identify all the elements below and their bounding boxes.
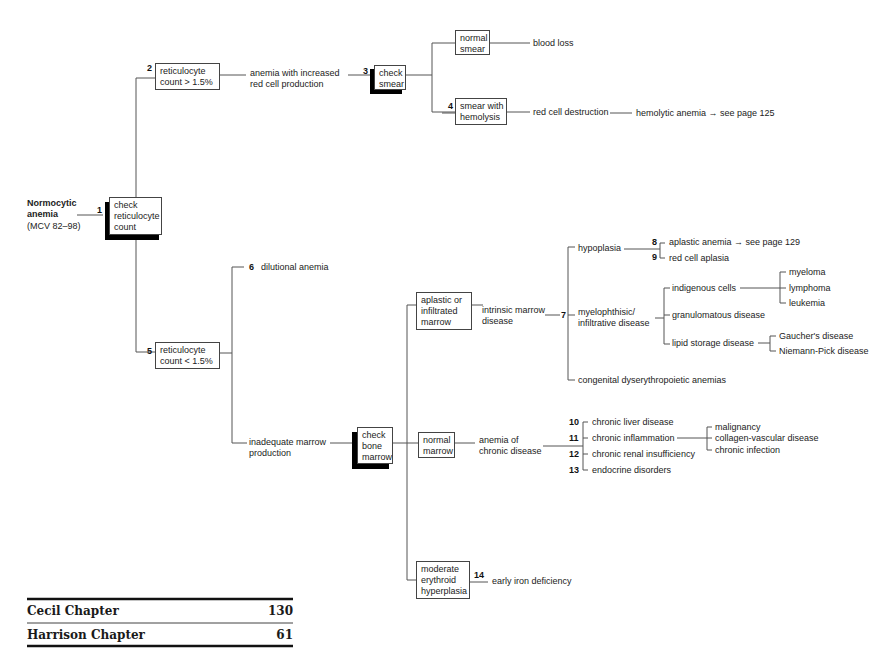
- inadequate-production-text: inadequate marrow: [249, 437, 326, 448]
- lipid-storage-text: lipid storage disease: [672, 338, 754, 349]
- hemolytic-anemia-link[interactable]: hemolytic anemia → see page 125: [636, 108, 775, 119]
- normal-marrow-box[interactable]: normal marrow: [418, 432, 455, 458]
- chronic-liver-text: chronic liver disease: [592, 417, 674, 428]
- early-iron-deficiency-text: early iron deficiency: [492, 576, 572, 587]
- red-cell-destruction-text: red cell destruction: [533, 107, 609, 118]
- aplastic-marrow-box[interactable]: aplastic or infiltrated marrow: [416, 292, 472, 330]
- retic-high-box[interactable]: reticulocyte count > 1.5%: [155, 63, 220, 90]
- box-text: check: [362, 430, 388, 441]
- lymphoma-text: lymphoma: [789, 283, 831, 294]
- niemann-pick-text: Niemann-Pick disease: [779, 346, 869, 357]
- step-number: 4: [448, 101, 453, 112]
- box-text: count: [114, 222, 157, 233]
- step-number: 1: [97, 205, 102, 216]
- box-text: smear: [460, 44, 485, 55]
- aplastic-anemia-link[interactable]: aplastic anemia → see page 129: [669, 237, 800, 248]
- step-number: 2: [147, 63, 152, 74]
- leukemia-text: leukemia: [789, 298, 825, 309]
- dilutional-anemia-text: dilutional anemia: [261, 262, 329, 273]
- step-number: 6: [249, 262, 254, 273]
- box-text: normal: [423, 435, 450, 446]
- box-text: check: [379, 68, 401, 79]
- box-text: aplastic or: [421, 295, 467, 306]
- step-number: 11: [569, 433, 579, 444]
- box-text: marrow: [362, 452, 388, 463]
- step-number: 9: [652, 252, 657, 263]
- step-number: 10: [569, 417, 579, 428]
- box-text: marrow: [423, 446, 450, 457]
- blood-loss-text: blood loss: [533, 38, 574, 49]
- myelophthisic-text: myelophthisic/: [578, 307, 635, 318]
- box-text: infiltrated: [421, 306, 467, 317]
- box-text: reticulocyte: [114, 211, 157, 222]
- inadequate-production-text: production: [249, 448, 291, 459]
- endocrine-text: endocrine disorders: [592, 465, 671, 476]
- box-text: count > 1.5%: [160, 77, 215, 88]
- gaucher-text: Gaucher's disease: [779, 331, 853, 342]
- box-text: hyperplasia: [421, 586, 465, 597]
- box-text: smear with: [460, 101, 502, 112]
- box-text: erythroid: [421, 575, 465, 586]
- reference-value: 130: [268, 604, 293, 618]
- increased-production-text: anemia with increased: [250, 68, 340, 79]
- step-number: 3: [363, 66, 368, 77]
- reference-row-harrison: Harrison Chapter 61: [27, 628, 293, 644]
- step-number: 5: [147, 346, 152, 357]
- check-reticulocyte-box[interactable]: check reticulocyte count: [109, 197, 162, 235]
- box-text: count < 1.5%: [160, 356, 215, 367]
- intrinsic-disease-text: intrinsic marrow: [482, 305, 545, 316]
- normal-smear-box[interactable]: normal smear: [455, 30, 490, 55]
- box-text: reticulocyte: [160, 66, 215, 77]
- reference-label: Cecil Chapter: [27, 604, 119, 618]
- moderate-hyperplasia-box[interactable]: moderate erythroid hyperplasia: [416, 561, 470, 599]
- malignancy-text: malignancy: [715, 422, 761, 433]
- root-subtitle: (MCV 82–98): [27, 221, 81, 232]
- step-number: 8: [652, 237, 657, 248]
- myeloma-text: myeloma: [789, 267, 826, 278]
- chronic-disease-text: chronic disease: [479, 446, 542, 457]
- root-title-line2: anemia: [27, 209, 58, 220]
- box-text: marrow: [421, 317, 467, 328]
- reference-label: Harrison Chapter: [27, 628, 145, 642]
- box-text: moderate: [421, 564, 465, 575]
- box-text: hemolysis: [460, 112, 502, 123]
- granulomatous-text: granulomatous disease: [672, 310, 765, 321]
- chronic-infection-text: chronic infection: [715, 445, 780, 456]
- chronic-disease-text: anemia of: [479, 435, 519, 446]
- check-bone-marrow-box[interactable]: check bone marrow: [357, 427, 393, 464]
- indigenous-cells-text: indigenous cells: [672, 283, 736, 294]
- box-text: normal: [460, 33, 485, 44]
- box-text: bone: [362, 441, 388, 452]
- box-text: smear: [379, 79, 401, 90]
- hypoplasia-text: hypoplasia: [578, 243, 621, 254]
- myelophthisic-text: infiltrative disease: [578, 318, 650, 329]
- step-number: 12: [569, 449, 579, 460]
- reference-row-cecil: Cecil Chapter 130: [27, 604, 293, 620]
- chronic-renal-text: chronic renal insufficiency: [592, 449, 695, 460]
- box-text: check: [114, 200, 157, 211]
- step-number: 7: [561, 310, 566, 321]
- intrinsic-disease-text: disease: [482, 316, 513, 327]
- step-number: 14: [474, 570, 484, 581]
- red-cell-aplasia-text: red cell aplasia: [669, 253, 729, 264]
- reference-value: 61: [276, 628, 293, 642]
- smear-hemolysis-box[interactable]: smear with hemolysis: [455, 98, 507, 125]
- chronic-inflammation-text: chronic inflammation: [592, 433, 675, 444]
- congenital-text: congenital dyserythropoietic anemias: [578, 375, 726, 386]
- collagen-vascular-text: collagen-vascular disease: [715, 433, 819, 444]
- increased-production-text: red cell production: [250, 79, 324, 90]
- box-text: reticulocyte: [160, 345, 215, 356]
- step-number: 13: [569, 465, 579, 476]
- check-smear-box[interactable]: check smear: [374, 65, 406, 90]
- retic-low-box[interactable]: reticulocyte count < 1.5%: [155, 342, 220, 369]
- root-title: Normocytic: [27, 198, 77, 209]
